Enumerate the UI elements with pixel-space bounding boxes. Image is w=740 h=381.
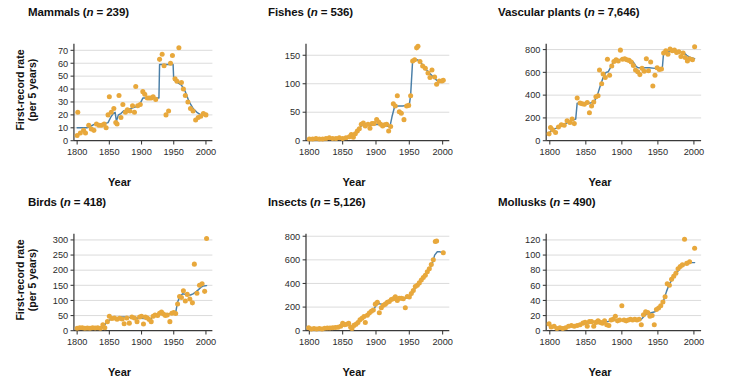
data-point bbox=[395, 93, 400, 98]
data-point bbox=[650, 84, 655, 89]
panel-mammals: Mammals (n = 239)First-record rate(per 5… bbox=[0, 0, 240, 190]
panel-title-mammals: Mammals (n = 239) bbox=[28, 6, 129, 18]
data-point bbox=[166, 108, 171, 113]
data-point bbox=[587, 110, 592, 115]
x-tick-label: 1800 bbox=[67, 147, 87, 157]
data-point bbox=[681, 50, 686, 55]
data-point bbox=[162, 63, 167, 68]
data-point bbox=[176, 45, 181, 50]
data-point bbox=[399, 111, 404, 116]
x-tick-label: 2000 bbox=[196, 337, 216, 347]
x-tick-label: 1850 bbox=[99, 147, 119, 157]
x-tick-label: 1800 bbox=[540, 337, 560, 347]
y-tick-label: 20 bbox=[58, 110, 68, 120]
y-tick-label: 50 bbox=[58, 71, 68, 81]
y-axis-title: First-record rate(per 5 years) bbox=[14, 40, 38, 140]
data-point bbox=[122, 321, 127, 326]
data-point bbox=[120, 102, 125, 107]
y-tick-label: 20 bbox=[530, 311, 540, 321]
data-point bbox=[179, 295, 184, 300]
y-tick-label: 100 bbox=[53, 296, 68, 306]
x-tick-label: 1950 bbox=[164, 337, 184, 347]
data-point bbox=[408, 93, 413, 98]
data-point bbox=[596, 93, 601, 98]
data-point bbox=[589, 319, 594, 324]
data-point bbox=[429, 68, 434, 73]
data-point bbox=[157, 57, 162, 62]
data-point bbox=[412, 57, 417, 62]
data-point bbox=[377, 310, 382, 315]
x-tick-label: 1900 bbox=[131, 147, 151, 157]
data-point bbox=[138, 102, 143, 107]
x-tick-label: 1850 bbox=[576, 337, 596, 347]
y-tick-label: 50 bbox=[290, 108, 300, 118]
data-point bbox=[642, 69, 647, 74]
data-point bbox=[692, 246, 697, 251]
y-tick-label: 40 bbox=[58, 84, 68, 94]
x-axis-title: Year bbox=[520, 366, 680, 378]
data-point bbox=[160, 52, 165, 57]
data-point bbox=[637, 72, 642, 77]
x-tick-label: 1950 bbox=[399, 147, 419, 157]
data-point bbox=[619, 303, 624, 308]
data-point bbox=[607, 73, 612, 78]
data-point bbox=[692, 44, 697, 49]
data-point bbox=[591, 99, 596, 104]
data-point bbox=[597, 68, 602, 73]
data-point bbox=[183, 93, 188, 98]
data-point bbox=[200, 281, 205, 286]
data-point bbox=[181, 288, 186, 293]
panel-mollusks: Mollusks (n = 490)Year020406080100120180… bbox=[480, 190, 740, 381]
x-tick-label: 1950 bbox=[648, 337, 668, 347]
data-point bbox=[107, 94, 112, 99]
plot-area-mollusks: 02040608010012018001850190019502000 bbox=[520, 230, 706, 352]
data-point bbox=[553, 130, 558, 135]
x-tick-label: 1950 bbox=[399, 337, 419, 347]
data-point bbox=[141, 322, 146, 327]
data-point bbox=[562, 123, 567, 128]
x-tick-label: 1800 bbox=[67, 337, 87, 347]
data-point bbox=[75, 110, 80, 115]
y-tick-label: 30 bbox=[58, 97, 68, 107]
data-point bbox=[135, 319, 140, 324]
panel-title-mollusks: Mollusks (n = 490) bbox=[498, 196, 596, 208]
data-point bbox=[153, 97, 158, 102]
x-tick-label: 2000 bbox=[432, 337, 452, 347]
y-tick-label: 200 bbox=[53, 265, 68, 275]
y-tick-label: 200 bbox=[525, 113, 540, 123]
data-point bbox=[639, 322, 644, 327]
data-point bbox=[104, 125, 109, 130]
y-axis-title-line1: First-record rate bbox=[14, 230, 26, 330]
y-tick-label: 100 bbox=[525, 250, 540, 260]
data-point bbox=[202, 289, 207, 294]
data-point bbox=[570, 117, 575, 122]
data-point bbox=[575, 95, 580, 100]
panel-insects: Insects (n = 5,126)Year02004006008001800… bbox=[240, 190, 480, 381]
data-point bbox=[660, 299, 665, 304]
data-point bbox=[423, 66, 428, 71]
y-axis-title: First-record rate(per 5 years) bbox=[14, 230, 38, 330]
data-point bbox=[371, 308, 376, 313]
panel-birds: Birds (n = 418)First-record rate(per 5 y… bbox=[0, 190, 240, 381]
data-point bbox=[133, 84, 138, 89]
y-tick-label: 800 bbox=[525, 45, 540, 55]
trend-line bbox=[309, 252, 443, 329]
x-tick-label: 1950 bbox=[648, 147, 668, 157]
x-tick-label: 1900 bbox=[131, 337, 151, 347]
data-point bbox=[127, 321, 132, 326]
y-tick-label: 0 bbox=[535, 326, 540, 336]
data-point bbox=[606, 323, 611, 328]
plot-area-vascular-plants: 020040060080018001850190019502000 bbox=[520, 40, 706, 162]
data-point bbox=[648, 60, 653, 65]
x-tick-label: 1850 bbox=[332, 337, 352, 347]
data-point bbox=[388, 124, 393, 129]
y-tick-label: 100 bbox=[285, 79, 300, 89]
data-point bbox=[170, 53, 175, 58]
data-point bbox=[111, 106, 116, 111]
data-point bbox=[650, 313, 655, 318]
data-point bbox=[149, 319, 154, 324]
data-point bbox=[667, 283, 672, 288]
data-point bbox=[676, 49, 681, 54]
plot-area-fishes: 05010015018001850190019502000 bbox=[280, 40, 454, 162]
data-point bbox=[357, 126, 362, 131]
